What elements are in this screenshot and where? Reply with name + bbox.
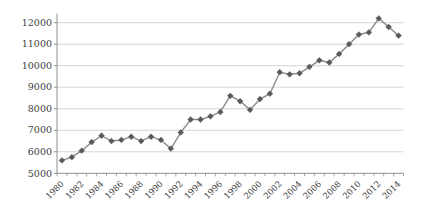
svg-text:2000: 2000: [241, 179, 263, 201]
svg-text:1984: 1984: [83, 179, 105, 201]
line-chart-figure: 5000600070008000900010000110001200019801…: [0, 0, 424, 219]
svg-text:8000: 8000: [28, 103, 52, 114]
y-axis-labels: 50006000700080009000100001100012000: [22, 17, 52, 179]
chart-svg: 5000600070008000900010000110001200019801…: [0, 0, 424, 219]
svg-text:2002: 2002: [261, 179, 283, 201]
svg-text:7000: 7000: [28, 124, 52, 135]
data-point-marker: [148, 134, 154, 140]
svg-text:2008: 2008: [321, 179, 343, 201]
data-point-marker: [128, 134, 134, 140]
x-axis-labels: 1980198219841986198819901992199419961998…: [43, 179, 402, 201]
svg-text:1982: 1982: [63, 179, 85, 201]
svg-text:11000: 11000: [22, 38, 52, 49]
svg-text:1988: 1988: [123, 179, 145, 201]
svg-text:1998: 1998: [222, 179, 244, 201]
svg-text:2012: 2012: [360, 179, 382, 201]
data-point-marker: [198, 117, 204, 123]
data-point-marker: [277, 69, 283, 75]
svg-text:1992: 1992: [162, 179, 184, 201]
data-point-marker: [109, 138, 115, 144]
svg-text:10000: 10000: [22, 60, 52, 71]
data-point-marker: [59, 157, 65, 163]
data-point-marker: [267, 91, 273, 97]
svg-text:12000: 12000: [22, 17, 52, 28]
svg-text:2010: 2010: [340, 179, 362, 201]
svg-text:1980: 1980: [43, 179, 65, 201]
screenshot-root: 5000600070008000900010000110001200019801…: [0, 0, 424, 219]
svg-text:6000: 6000: [28, 146, 52, 157]
data-point-marker: [208, 113, 214, 119]
svg-text:1996: 1996: [202, 179, 224, 201]
svg-text:5000: 5000: [28, 168, 52, 179]
svg-text:2014: 2014: [380, 179, 402, 201]
data-point-marker: [118, 137, 124, 143]
svg-text:9000: 9000: [28, 81, 52, 92]
svg-text:2006: 2006: [301, 179, 323, 201]
data-point-marker: [287, 71, 293, 77]
svg-text:1986: 1986: [103, 179, 125, 201]
svg-text:2004: 2004: [281, 179, 303, 201]
data-point-markers: [59, 15, 401, 163]
svg-text:1994: 1994: [182, 179, 204, 201]
svg-text:1990: 1990: [142, 179, 164, 201]
data-point-marker: [138, 138, 144, 144]
